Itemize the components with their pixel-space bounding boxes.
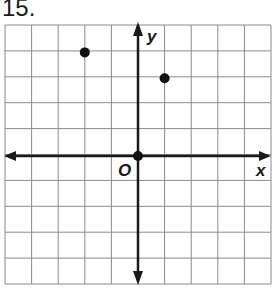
y-axis-label: y (146, 27, 158, 46)
x-axis-right-arrow-icon (259, 151, 271, 161)
y-axis-down-arrow-icon (133, 271, 143, 285)
plotted-point (80, 47, 90, 57)
plotted-point (160, 73, 170, 83)
x-axis-label: x (255, 161, 267, 180)
y-axis-up-arrow-icon (133, 22, 143, 36)
origin-label: O (118, 161, 131, 180)
plotted-point (133, 151, 143, 161)
x-axis-left-arrow-icon (4, 151, 16, 161)
plotted-points (80, 47, 170, 161)
coordinate-plane: y x O (0, 0, 274, 290)
